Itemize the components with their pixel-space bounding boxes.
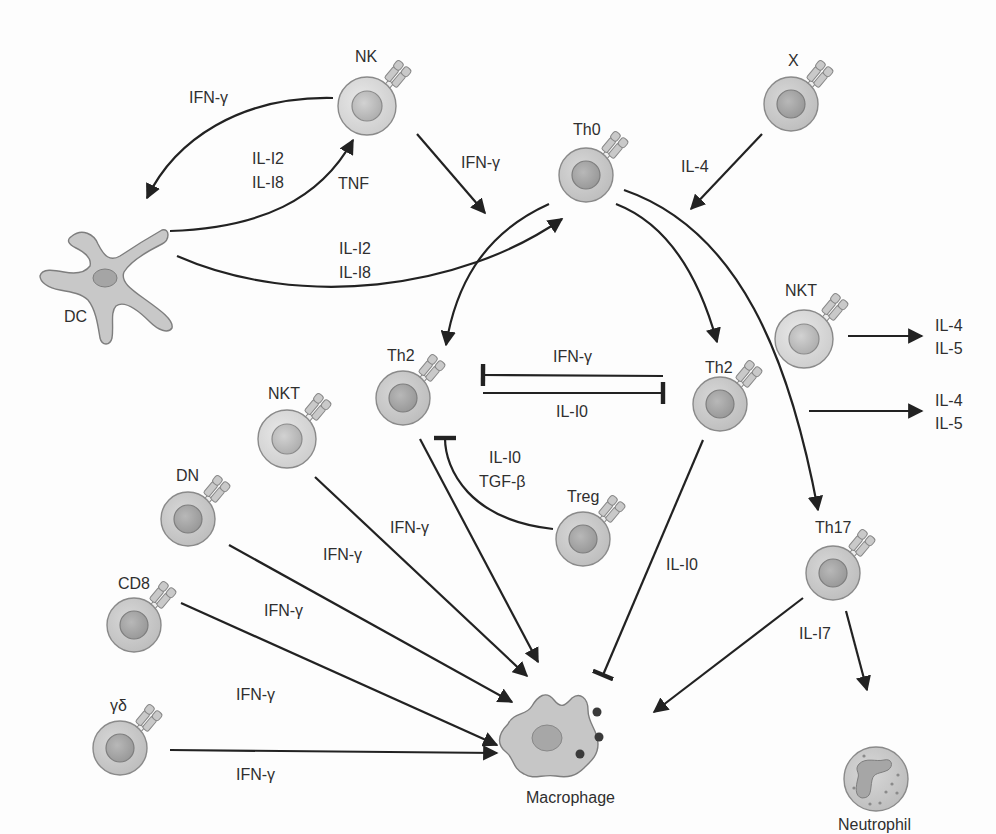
cell-nk: NK [338,48,412,135]
cell-th0-label: Th0 [573,121,601,138]
cell-cd8: CD8 [107,575,177,652]
label-nkt-right-output-1: IL-4 [935,317,963,334]
cell-treg-label: Treg [567,488,599,505]
label-dc-to-nk-1: IL-I2 [252,150,284,167]
granule-icon [576,750,585,759]
label-dc-to-th0-2: IL-I8 [339,264,371,281]
cell-th2-right-label: Th2 [705,359,733,376]
label-th2l-to-macrophage: IFN-γ [390,519,429,536]
granule-icon [593,708,602,717]
label-x-to-th0: IL-4 [681,158,709,175]
edge-nk-to-dc [147,98,333,198]
label-th2-right-output-2: IL-5 [935,415,963,432]
label-th2-right-output-1: IL-4 [935,392,963,409]
cell-th17-label: Th17 [815,519,852,536]
cell-gamma-delta: γδ [93,697,163,775]
x-cell-icon [764,59,834,131]
dn-cell-icon [161,474,231,546]
edge-th0-to-th2-right [616,204,717,342]
th2-left-cell-icon [376,353,446,425]
neutrophil-icon [844,747,908,811]
label-dc-to-nk-3: TNF [338,175,369,192]
edge-gd-to-macrophage [170,750,497,753]
treg-cell-icon [556,494,626,566]
cell-th2-right: Th2 [693,359,763,431]
cell-th0: Th0 [559,121,629,202]
cell-th2-left-label: Th2 [387,347,415,364]
label-nkt-right-output-2: IL-5 [935,340,963,357]
granule-icon [595,733,604,742]
label-nktl-to-macrophage: IFN-γ [323,546,362,563]
edge-th17-to-macrophage [654,598,803,712]
cell-th2-left: Th2 [376,347,446,425]
cell-th17: Th17 [806,519,876,600]
label-th2r-inhibits-macrophage: IL-I0 [666,556,698,573]
cell-neutrophil-label: Neutrophil [838,816,911,833]
cell-nkt-left-label: NKT [268,385,300,402]
immune-cell-interaction-diagram: IFN-γ IL-I2 IL-I8 TNF IFN-γ IL-I2 IL-I8 … [0,0,996,834]
label-dn-to-macrophage: IFN-γ [264,602,303,619]
label-nk-to-th0: IFN-γ [461,154,500,171]
label-th17: IL-I7 [799,625,831,642]
cell-macrophage: Macrophage [500,695,616,806]
cell-nk-label: NK [355,48,378,65]
label-nk-to-dc: IFN-γ [189,89,228,106]
nkt-left-cell-icon [258,392,332,468]
label-th2r-inhibits-th2l: IFN-γ [553,348,592,365]
cell-x: X [764,52,834,131]
cell-dc-label: DC [64,308,87,325]
cell-macrophage-label: Macrophage [526,789,615,806]
label-treg-inhibits-th2l-1: IL-I0 [489,449,521,466]
th0-cell-icon [559,130,629,202]
edge-nktl-to-macrophage [315,477,527,676]
edge-th17-to-neutrophil [846,611,867,690]
nkt-right-cell-icon [775,292,849,368]
label-treg-inhibits-th2l-2: TGF-β [479,473,526,490]
label-dc-to-th0-1: IL-I2 [339,240,371,257]
cell-nkt-left: NKT [258,385,332,468]
gamma-delta-cell-icon [93,703,163,775]
edge-nk-to-th0 [417,134,485,213]
label-cd8-to-macrophage: IFN-γ [236,686,275,703]
nk-cell-icon [338,59,412,135]
cell-dc: DC [40,230,172,344]
cell-x-label: X [788,52,799,69]
cell-neutrophil: Neutrophil [838,747,911,833]
cell-treg: Treg [556,488,626,566]
edge-th2r-inhibits-th2l [483,375,663,376]
th17-cell-icon [806,528,876,600]
label-gd-to-macrophage: IFN-γ [236,766,275,783]
cell-cd8-label: CD8 [118,575,150,592]
cell-nkt-right-label: NKT [785,282,817,299]
label-th2l-inhibits-th2r: IL-I0 [556,403,588,420]
label-dc-to-nk-2: IL-I8 [252,174,284,191]
cell-dn-label: DN [176,467,199,484]
edge-cd8-to-macrophage [181,603,497,745]
cell-dn: DN [161,467,231,546]
edge-th0-to-th2-left [446,204,549,345]
cell-gamma-delta-label: γδ [110,697,127,714]
cell-nkt-right: NKT [775,282,849,368]
